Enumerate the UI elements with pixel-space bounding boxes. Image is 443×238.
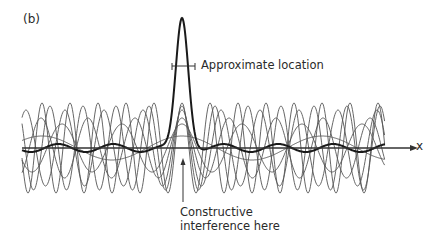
constructive-interference-label: Constructive interference here (180, 205, 280, 233)
wave-packet-figure (0, 0, 443, 238)
constructive-label-line1: Constructive (180, 205, 280, 219)
approximate-location-label: Approximate location (201, 58, 324, 72)
x-axis-label: x (416, 139, 423, 153)
constructive-interference-arrowhead (181, 158, 186, 165)
panel-label: (b) (23, 12, 40, 26)
constructive-label-line2: interference here (180, 219, 280, 233)
